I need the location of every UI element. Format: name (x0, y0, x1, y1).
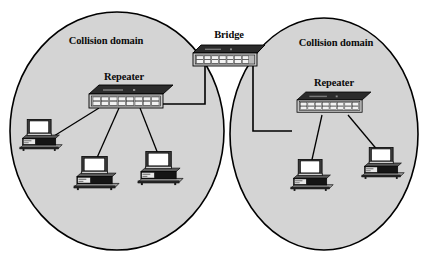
device-bridge[interactable] (193, 45, 265, 66)
network-topology-diagram: Collision domain Collision domain Bridge… (0, 0, 432, 268)
bridge-label: Bridge (196, 30, 262, 41)
repeater-right-label: Repeater (294, 78, 374, 89)
collision-domain-left-label: Collision domain (46, 36, 166, 47)
collision-domain-right-label: Collision domain (276, 38, 396, 49)
collision-domain-right-ellipse (230, 18, 418, 250)
device-repeater-right[interactable] (297, 92, 371, 112)
repeater-left-label: Repeater (84, 72, 164, 83)
device-repeater-left[interactable] (89, 85, 173, 108)
